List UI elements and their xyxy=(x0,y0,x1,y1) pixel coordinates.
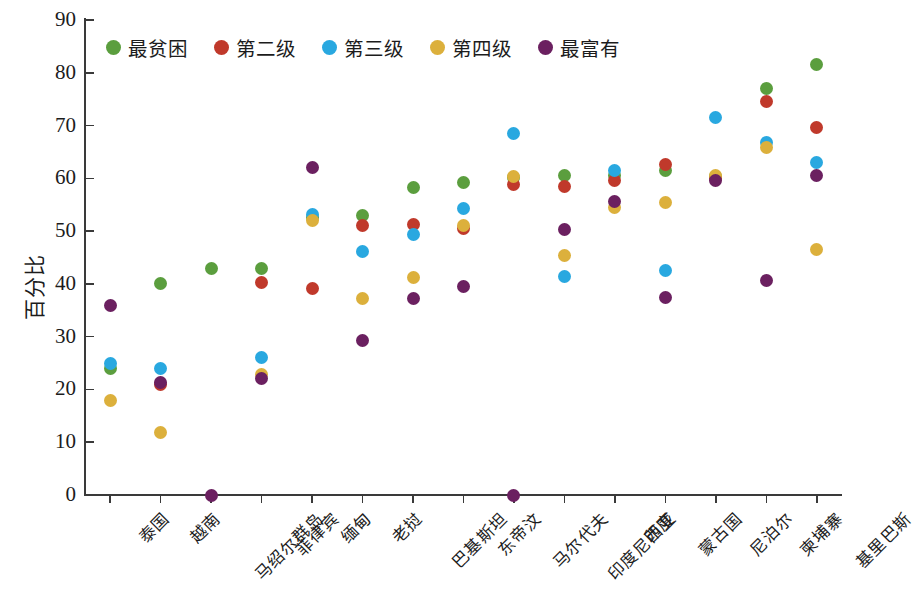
data-point xyxy=(306,208,319,221)
data-point xyxy=(306,214,319,227)
data-point xyxy=(558,270,571,283)
y-axis-tick-label: 80 xyxy=(34,62,76,83)
data-point xyxy=(558,249,571,262)
data-point xyxy=(255,368,268,381)
y-axis-tick-label: 60 xyxy=(34,167,76,188)
x-axis-tick xyxy=(463,495,465,503)
data-point xyxy=(356,209,369,222)
data-point xyxy=(154,426,167,439)
legend-item[interactable]: 第四级 xyxy=(430,33,512,62)
x-axis-tick xyxy=(766,495,768,503)
chart-legend: 最贫困第二级第三级第四级最富有 xyxy=(106,33,646,62)
y-axis-tick-label: 20 xyxy=(34,378,76,399)
x-axis-tick xyxy=(564,495,566,503)
y-axis-tick xyxy=(86,178,94,180)
data-point xyxy=(457,219,470,232)
x-axis-category-label: 越南 xyxy=(183,506,225,548)
y-axis-tick xyxy=(86,494,94,496)
data-point xyxy=(608,164,621,177)
data-point xyxy=(810,169,823,182)
legend-label: 最贫困 xyxy=(128,33,188,62)
data-point xyxy=(760,141,773,154)
y-axis-tick-label: 70 xyxy=(34,115,76,136)
data-point xyxy=(457,202,470,215)
y-axis-tick-label: 90 xyxy=(34,9,76,30)
legend-label: 第四级 xyxy=(452,33,512,62)
data-point xyxy=(356,334,369,347)
data-point xyxy=(356,245,369,258)
data-point xyxy=(760,95,773,108)
data-point xyxy=(760,136,773,149)
data-point xyxy=(659,291,672,304)
data-point xyxy=(709,172,722,185)
legend-swatch-circle-icon xyxy=(430,40,445,55)
legend-item[interactable]: 最富有 xyxy=(538,33,620,62)
x-axis-category-label: 老挝 xyxy=(385,506,427,548)
data-point xyxy=(810,121,823,134)
data-point xyxy=(356,292,369,305)
data-point xyxy=(306,211,319,224)
legend-swatch-circle-icon xyxy=(322,40,337,55)
x-axis-category-label: 马尔代夫 xyxy=(546,506,612,572)
data-point xyxy=(810,243,823,256)
x-axis-tick xyxy=(665,495,667,503)
x-axis-category-label: 尼泊尔 xyxy=(743,506,797,560)
y-axis-title: 百分比 xyxy=(18,254,48,320)
y-axis-tick-label: 50 xyxy=(34,220,76,241)
data-point xyxy=(709,174,722,187)
legend-label: 第三级 xyxy=(344,33,404,62)
data-point xyxy=(306,161,319,174)
data-point xyxy=(154,376,167,389)
data-point xyxy=(205,262,218,275)
x-axis-tick xyxy=(210,495,212,503)
x-axis-tick xyxy=(261,495,263,503)
data-point xyxy=(407,292,420,305)
data-point xyxy=(507,127,520,140)
data-point xyxy=(356,219,369,232)
data-point xyxy=(104,299,117,312)
data-point xyxy=(154,362,167,375)
data-point xyxy=(104,357,117,370)
x-axis-category-label: 缅甸 xyxy=(334,506,376,548)
x-axis-tick xyxy=(160,495,162,503)
data-point xyxy=(760,82,773,95)
legend-swatch-circle-icon xyxy=(538,40,553,55)
y-axis-tick xyxy=(86,441,94,443)
data-point xyxy=(558,223,571,236)
legend-item[interactable]: 第三级 xyxy=(322,33,404,62)
data-point xyxy=(709,170,722,183)
data-point xyxy=(104,362,117,375)
data-point xyxy=(457,176,470,189)
x-axis-tick xyxy=(362,495,364,503)
data-point xyxy=(154,378,167,391)
x-axis-tick xyxy=(109,495,111,503)
y-axis-tick-label: 0 xyxy=(34,484,76,505)
data-point xyxy=(558,169,571,182)
y-axis-line xyxy=(84,18,86,496)
data-point xyxy=(507,178,520,191)
data-point xyxy=(255,276,268,289)
data-point xyxy=(255,372,268,385)
data-point xyxy=(608,174,621,187)
y-axis-tick xyxy=(86,389,94,391)
data-point xyxy=(608,201,621,214)
data-point xyxy=(457,280,470,293)
legend-item[interactable]: 第二级 xyxy=(214,33,296,62)
data-point xyxy=(760,274,773,287)
y-axis-tick xyxy=(86,72,94,74)
data-point xyxy=(810,58,823,71)
data-point xyxy=(659,164,672,177)
legend-item[interactable]: 最贫困 xyxy=(106,33,188,62)
x-axis-tick xyxy=(513,495,515,503)
data-point xyxy=(407,181,420,194)
data-point xyxy=(407,218,420,231)
data-point xyxy=(608,169,621,182)
y-axis-tick-label: 30 xyxy=(34,326,76,347)
x-axis-category-label: 基里巴斯 xyxy=(849,506,915,572)
y-axis-tick xyxy=(86,230,94,232)
data-point xyxy=(507,171,520,184)
x-axis-tick xyxy=(614,495,616,503)
x-axis-category-label: 泰国 xyxy=(132,506,174,548)
